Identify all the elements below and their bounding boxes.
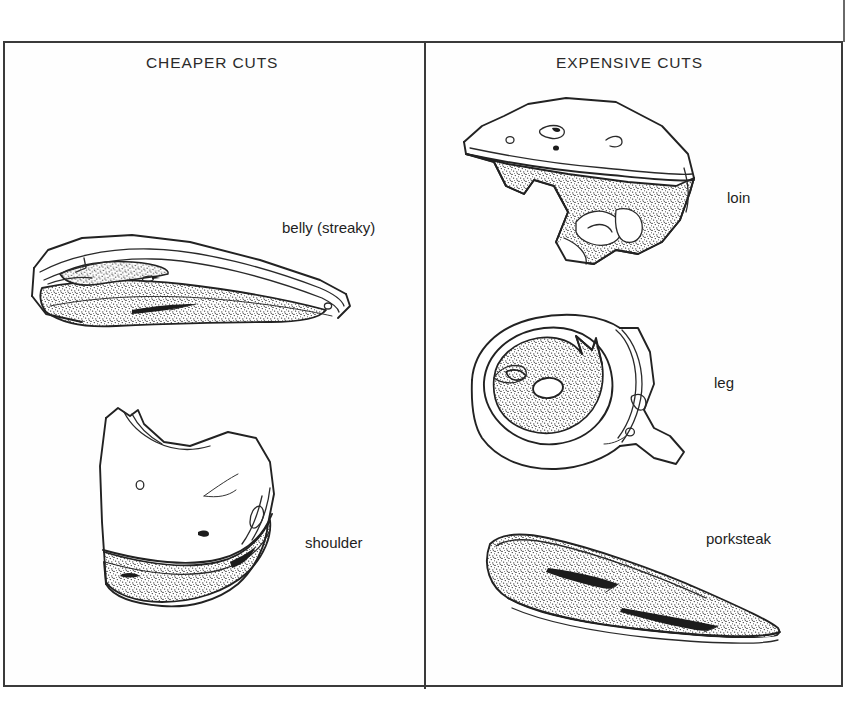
pork-belly-illustration	[20, 222, 360, 344]
frame-top-right-edge	[843, 0, 845, 42]
cut-label-porksteak: porksteak	[706, 530, 771, 547]
column-heading-expensive: EXPENSIVE CUTS	[556, 54, 703, 72]
pork-leg-illustration	[458, 306, 704, 478]
cut-label-belly: belly (streaky)	[282, 219, 375, 236]
cut-label-shoulder: shoulder	[305, 534, 363, 551]
column-heading-cheaper: CHEAPER CUTS	[146, 54, 278, 72]
pork-shoulder-illustration	[78, 402, 314, 618]
cut-label-loin: loin	[727, 189, 750, 206]
column-divider	[424, 41, 426, 689]
figure-page: CHEAPER CUTS EXPENSIVE CUTS	[0, 0, 854, 706]
pork-loin-illustration	[448, 82, 716, 278]
cut-label-leg: leg	[714, 374, 734, 391]
